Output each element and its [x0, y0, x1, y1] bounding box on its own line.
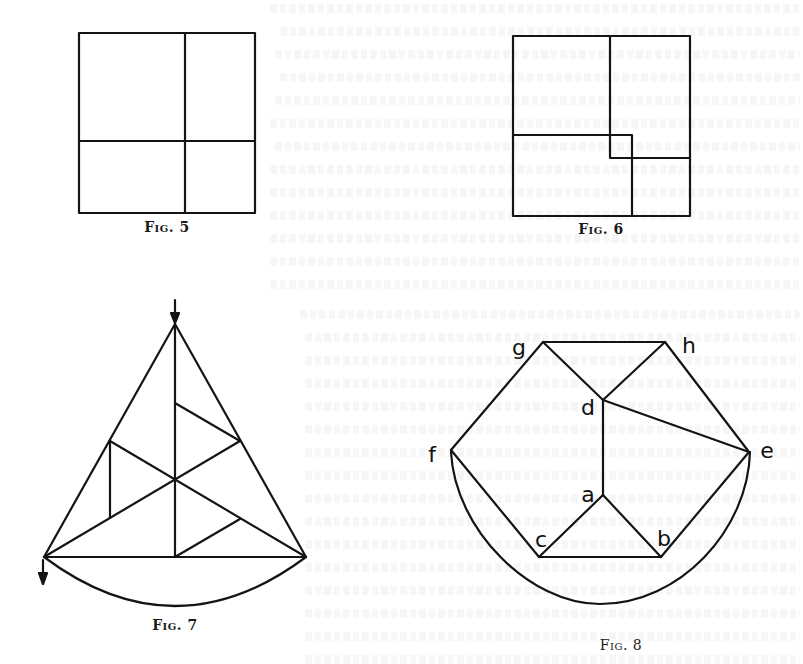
fig6-top-right-rectangle-edge: [610, 36, 690, 158]
fig8-vertex-label-h: h: [682, 335, 696, 357]
figure-8-diagram: [451, 342, 750, 604]
fig5-outer-square: [79, 33, 255, 213]
fig8-vertex-label-b: b: [657, 528, 671, 550]
figure-6-caption: Fig. 6: [578, 221, 624, 237]
fig7-left-arrow-icon: [39, 573, 47, 584]
fig8-edge-h-d: [603, 342, 665, 400]
figure-7-caption: Fig. 7: [152, 617, 198, 633]
fig7-top-arrow-icon: [171, 313, 179, 323]
fig6-outer-square: [513, 36, 690, 216]
fig7-base-arc: [44, 557, 306, 606]
figure-8-caption: Fig. 8: [600, 637, 642, 653]
fig8-vertex-label-f: f: [428, 444, 436, 466]
fig7-median-left-to-right-side: [44, 441, 240, 557]
figure-6-diagram: [513, 36, 690, 216]
fig7-lower-right-inner-segment: [175, 519, 240, 557]
fig8-vertex-label-a: a: [581, 484, 594, 506]
figures-canvas: [0, 0, 803, 664]
fig8-vertex-label-e: e: [760, 440, 774, 462]
fig7-median-right-to-left-side: [110, 441, 306, 557]
fig8-edge-h-e: [665, 342, 749, 452]
fig8-edge-g-d: [543, 342, 603, 400]
fig8-vertex-label-c: c: [535, 529, 547, 551]
fig8-vertex-label-d: d: [581, 397, 595, 419]
figure-5-diagram: [79, 33, 255, 213]
fig8-edge-g-f: [451, 342, 543, 450]
fig8-lower-arc: [451, 452, 750, 604]
fig8-edge-a-b: [603, 495, 661, 557]
figure-5-caption: Fig. 5: [144, 219, 190, 235]
book-page: Fig. 5 Fig. 6 Fig. 7 Fig. 8 g h d f e a …: [0, 0, 803, 664]
figure-7-diagram: [39, 300, 306, 606]
fig8-vertex-label-g: g: [512, 337, 526, 359]
fig8-edge-e-b: [661, 452, 749, 557]
fig6-bottom-left-rectangle-edge: [513, 135, 632, 216]
fig8-edge-d-e: [603, 400, 749, 452]
